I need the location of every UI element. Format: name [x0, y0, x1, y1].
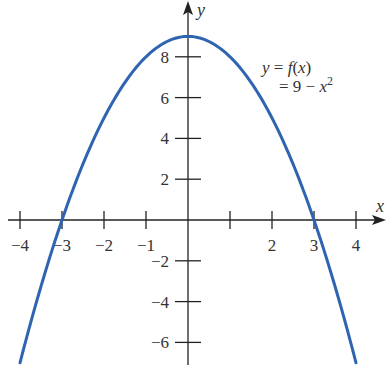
x-tick-label: 2 [268, 236, 277, 255]
x-tick-label: 3 [310, 236, 319, 255]
y-tick-label: 6 [161, 89, 170, 108]
y-tick-label: −2 [151, 252, 169, 271]
y-tick-label: 4 [161, 129, 170, 148]
x-axis-label: x [375, 196, 384, 216]
x-tick-label: −2 [95, 236, 113, 255]
y-tick-label: 2 [161, 170, 170, 189]
y-axis-label: y [195, 0, 205, 20]
x-tick-label: 4 [352, 236, 361, 255]
equation-line-2: = 9 − x2 [279, 74, 333, 96]
axes [8, 1, 386, 365]
parabola-chart: −4−3−2−12348642−2−4−6 x y y = f(x) = 9 −… [0, 0, 390, 386]
equation-line-1: y = f(x) [260, 58, 311, 77]
y-tick-label: −4 [151, 293, 170, 312]
y-tick-label: 8 [161, 48, 170, 67]
x-tick-label: −4 [11, 236, 30, 255]
y-tick-label: −6 [151, 333, 169, 352]
